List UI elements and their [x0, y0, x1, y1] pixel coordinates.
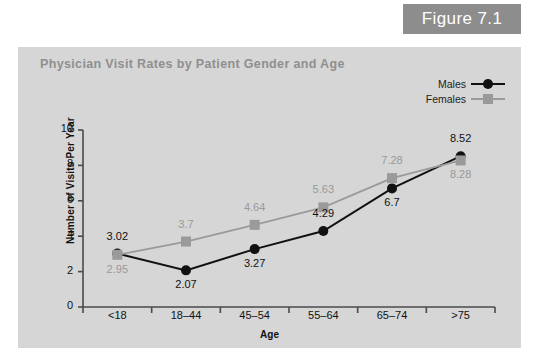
plot-area: Number of Visits Per Year Age 0246810<18…: [18, 47, 521, 348]
y-tick-label: 4: [47, 228, 73, 240]
x-tick-label: 45–54: [220, 309, 289, 321]
y-tick-label: 8: [47, 157, 73, 169]
data-label-males-5: 8.52: [438, 132, 484, 144]
data-label-females-0: 2.95: [94, 263, 140, 275]
data-label-females-5: 8.28: [438, 168, 484, 180]
chart-panel: Physician Visit Rates by Patient Gender …: [18, 47, 521, 348]
data-point-females-0: [112, 250, 122, 260]
x-tick-label: >75: [426, 309, 495, 321]
x-tick-label: 55–64: [289, 309, 358, 321]
x-tick-label: <18: [83, 309, 152, 321]
data-label-females-4: 7.28: [369, 154, 415, 166]
y-tick-label: 10: [47, 122, 73, 134]
data-label-males-2: 3.27: [232, 257, 278, 269]
data-label-males-4: 6.7: [369, 196, 415, 208]
y-tick-label: 2: [47, 264, 73, 276]
plot-svg: [18, 47, 521, 348]
data-point-females-2: [250, 220, 260, 230]
data-point-males-3: [318, 226, 328, 236]
x-axis-title: Age: [18, 329, 521, 340]
figure-number-badge: Figure 7.1: [403, 4, 521, 34]
data-point-males-1: [181, 265, 191, 275]
data-label-females-3: 5.63: [300, 183, 346, 195]
x-tick-label: 65–74: [358, 309, 427, 321]
figure-number-label: Figure 7.1: [422, 9, 503, 29]
data-point-females-1: [181, 237, 191, 247]
data-point-males-4: [387, 183, 397, 193]
data-label-females-1: 3.7: [163, 218, 209, 230]
x-tick-label: 18–44: [152, 309, 221, 321]
y-tick-label: 0: [47, 299, 73, 311]
data-point-females-5: [456, 155, 466, 165]
data-label-males-1: 2.07: [163, 278, 209, 290]
data-point-females-4: [387, 173, 397, 183]
data-label-females-2: 4.64: [232, 201, 278, 213]
data-label-males-3: 4.29: [300, 207, 346, 219]
y-tick-label: 6: [47, 193, 73, 205]
data-point-males-2: [250, 244, 260, 254]
data-label-males-0: 3.02: [94, 230, 140, 242]
